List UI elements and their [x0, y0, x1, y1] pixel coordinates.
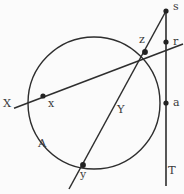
- label-point-y: y: [80, 169, 86, 180]
- label-point-x: x: [48, 98, 54, 109]
- point-s: [163, 8, 168, 13]
- label-line-X: X: [3, 98, 11, 110]
- label-region-A: A: [38, 138, 46, 150]
- line-secant-X: [14, 44, 183, 108]
- label-point-z: z: [139, 34, 145, 45]
- label-point-r: r: [173, 36, 178, 47]
- label-line-T: T: [168, 165, 176, 177]
- point-r: [163, 39, 168, 44]
- point-a: [163, 100, 168, 105]
- label-point-s: s: [173, 1, 179, 12]
- label-point-a: a: [173, 97, 180, 108]
- geometry-figure: X x A y Y z s r a T: [0, 0, 184, 194]
- geometry-canvas: [0, 0, 184, 194]
- point-x: [40, 93, 45, 98]
- point-z: [142, 49, 148, 55]
- label-line-Y: Y: [117, 104, 125, 116]
